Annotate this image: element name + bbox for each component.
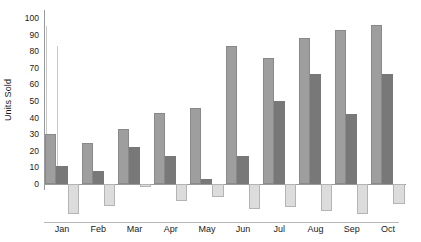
bar[interactable]: [274, 101, 285, 184]
y-tick-label: 80: [30, 46, 39, 56]
bar[interactable]: [68, 184, 79, 214]
x-tick-label: Jan: [55, 224, 70, 234]
bar[interactable]: [165, 156, 176, 184]
bar-group: [154, 10, 188, 225]
bar-group: [190, 10, 224, 225]
x-tick-label: Jul: [274, 224, 286, 234]
bar-group: [118, 10, 152, 225]
x-tick-label: Aug: [307, 224, 323, 234]
x-tick-label: Oct: [381, 224, 395, 234]
bar[interactable]: [310, 74, 321, 184]
bar[interactable]: [82, 143, 93, 185]
y-tick-label: 40: [30, 113, 39, 123]
y-tick-label: 90: [30, 30, 39, 40]
x-tick-label: Sep: [344, 224, 360, 234]
x-tick-label: Mar: [127, 224, 143, 234]
bar-group: [45, 10, 79, 225]
y-tick-label: 0: [34, 179, 39, 189]
x-tick-label: Jun: [236, 224, 251, 234]
bar[interactable]: [263, 58, 274, 184]
bar-group: [371, 10, 405, 225]
bar[interactable]: [93, 171, 104, 184]
bar-group: [263, 10, 297, 225]
bar[interactable]: [140, 184, 151, 187]
bar[interactable]: [357, 184, 368, 214]
bar[interactable]: [154, 113, 165, 184]
bar[interactable]: [190, 108, 201, 184]
bar[interactable]: [129, 147, 140, 184]
y-axis-title-label: Units Sold: [3, 79, 13, 121]
bar[interactable]: [382, 74, 393, 184]
bar[interactable]: [201, 179, 212, 184]
bar[interactable]: [45, 134, 56, 184]
x-tick-label: May: [198, 224, 215, 234]
bar[interactable]: [226, 46, 237, 184]
bar[interactable]: [285, 184, 296, 207]
bar-chart: Units Sold 0102030405060708090100 JanFeb…: [0, 0, 421, 242]
y-tick-label: 60: [30, 79, 39, 89]
y-tick-label: 10: [30, 162, 39, 172]
bar[interactable]: [212, 184, 223, 197]
bar[interactable]: [237, 156, 248, 184]
x-tick-label: Apr: [164, 224, 178, 234]
bar[interactable]: [335, 30, 346, 184]
bar[interactable]: [393, 184, 404, 204]
bar[interactable]: [176, 184, 187, 201]
bar[interactable]: [56, 166, 67, 184]
bar-group: [335, 10, 369, 225]
bar-spike-line: [57, 46, 58, 166]
bar[interactable]: [104, 184, 115, 206]
bar-spike-line: [46, 26, 47, 134]
y-axis-tick-labels: 0102030405060708090100: [16, 0, 42, 200]
x-axis-tick-labels: JanFebMarAprMayJunJulAugSepOct: [44, 224, 406, 240]
bar[interactable]: [299, 38, 310, 184]
y-axis-title: Units Sold: [0, 0, 16, 200]
bar-group: [299, 10, 333, 225]
y-tick-label: 100: [25, 13, 39, 23]
x-tick-label: Feb: [91, 224, 107, 234]
bar[interactable]: [321, 184, 332, 211]
y-tick-label: 50: [30, 96, 39, 106]
bar[interactable]: [346, 114, 357, 184]
y-tick-label: 20: [30, 146, 39, 156]
bar-group: [82, 10, 116, 225]
y-tick-label: 30: [30, 129, 39, 139]
bar[interactable]: [118, 129, 129, 184]
y-tick-label: 70: [30, 63, 39, 73]
plot-area: [44, 10, 406, 225]
bar[interactable]: [249, 184, 260, 209]
bar-group: [226, 10, 260, 225]
bar[interactable]: [371, 25, 382, 184]
